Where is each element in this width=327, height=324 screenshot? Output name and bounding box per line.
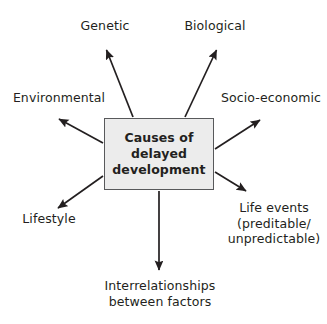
node-label-genetic: Genetic bbox=[74, 18, 136, 34]
node-label-life-events: Life events (preditable/ unpredictable) bbox=[224, 200, 324, 247]
node-label-lifestyle: Lifestyle bbox=[14, 211, 84, 227]
arrow-to-genetic bbox=[107, 50, 134, 117]
arrow-to-socio-economic bbox=[215, 120, 260, 149]
node-label-interrelationships: Interrelationships between factors bbox=[93, 278, 227, 309]
node-label-environmental: Environmental bbox=[10, 90, 108, 106]
diagram-canvas: Causes of delayed development Genetic Bi… bbox=[0, 0, 327, 324]
center-node-causes-of-delayed-development: Causes of delayed development bbox=[104, 118, 214, 190]
node-label-socio-economic: Socio-economic bbox=[219, 90, 323, 106]
arrow-to-life-events bbox=[215, 172, 246, 191]
center-node-label: Causes of delayed development bbox=[112, 130, 205, 178]
arrow-to-biological bbox=[185, 50, 217, 117]
arrow-to-lifestyle bbox=[58, 176, 103, 208]
arrow-to-environmental bbox=[59, 119, 103, 143]
node-label-biological: Biological bbox=[177, 18, 253, 34]
